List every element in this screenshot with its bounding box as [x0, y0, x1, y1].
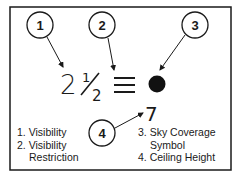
legend-item-sky-coverage-cont: Symbol [138, 139, 216, 152]
legend-item-visibility-restriction: 2. Visibility [17, 139, 79, 152]
svg-text:2: 2 [98, 18, 105, 33]
ceiling-height-value: 7 [145, 102, 158, 126]
legend-item-visibility: 1. Visibility [17, 126, 79, 139]
visibility-restriction-symbol [114, 78, 135, 92]
legend-item-ceiling-height: 4. Ceiling Height [138, 151, 216, 164]
callout-1: 1 [27, 12, 63, 67]
callout-2: 2 [89, 12, 115, 70]
legend-left: 1. Visibility 2. Visibility Restriction [17, 126, 79, 164]
visibility-value: 2 [60, 70, 77, 100]
visibility-fraction-numerator: 1 [82, 70, 90, 85]
svg-text:4: 4 [98, 126, 106, 141]
visibility-fraction-denominator: 2 [92, 87, 102, 105]
legend-item-visibility-restriction-cont: Restriction [17, 151, 79, 164]
callout-3: 3 [160, 12, 208, 70]
legend-right: 3. Sky Coverage Symbol 4. Ceiling Height [138, 126, 216, 164]
svg-text:1: 1 [36, 18, 43, 33]
svg-text:3: 3 [191, 18, 198, 33]
legend-item-sky-coverage: 3. Sky Coverage [138, 126, 216, 139]
callout-4: 4 [89, 113, 143, 146]
sky-coverage-symbol [149, 76, 166, 93]
